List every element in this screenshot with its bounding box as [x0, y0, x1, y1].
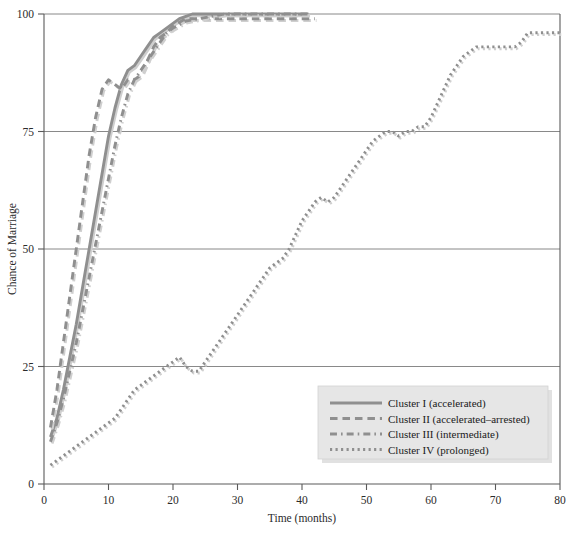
- series-shadow-2: [52, 21, 316, 430]
- x-tick-label-80: 80: [554, 494, 566, 506]
- grid-lines: [44, 14, 560, 367]
- y-axis-tick-labels: 0255075100: [17, 8, 35, 490]
- series-line-3: [50, 14, 308, 442]
- series-shadow-3: [52, 16, 310, 444]
- legend-label-1: Cluster I (accelerated): [388, 397, 486, 410]
- x-axis-tick-labels: 01020304050607080: [41, 494, 566, 506]
- marriage-chance-line-chart: 0255075100 01020304050607080 Time (month…: [0, 0, 579, 535]
- legend: Cluster I (accelerated)Cluster II (accel…: [318, 386, 552, 463]
- x-tick-label-30: 30: [232, 494, 244, 506]
- series-line-1: [50, 14, 308, 437]
- y-axis-title: Chance of Marriage: [6, 203, 19, 295]
- x-tick-label-40: 40: [296, 494, 308, 506]
- x-axis-title: Time (months): [268, 512, 336, 525]
- x-tick-label-70: 70: [490, 494, 502, 506]
- legend-label-2: Cluster II (accelerated–arrested): [388, 413, 530, 426]
- y-tick-label-100: 100: [17, 8, 35, 20]
- chart-figure: 0255075100 01020304050607080 Time (month…: [0, 0, 579, 535]
- x-tick-label-50: 50: [361, 494, 373, 506]
- y-tick-label-25: 25: [23, 361, 35, 373]
- series-shadow-1: [52, 16, 310, 439]
- x-tick-label-0: 0: [41, 494, 47, 506]
- legend-label-4: Cluster IV (prolonged): [388, 444, 489, 457]
- y-tick-label-0: 0: [28, 478, 34, 490]
- x-tick-label-10: 10: [103, 494, 115, 506]
- x-tick-label-20: 20: [167, 494, 179, 506]
- y-tick-label-75: 75: [23, 126, 35, 138]
- y-tick-label-50: 50: [23, 243, 35, 255]
- legend-label-3: Cluster III (intermediate): [388, 428, 499, 441]
- x-tick-label-60: 60: [425, 494, 437, 506]
